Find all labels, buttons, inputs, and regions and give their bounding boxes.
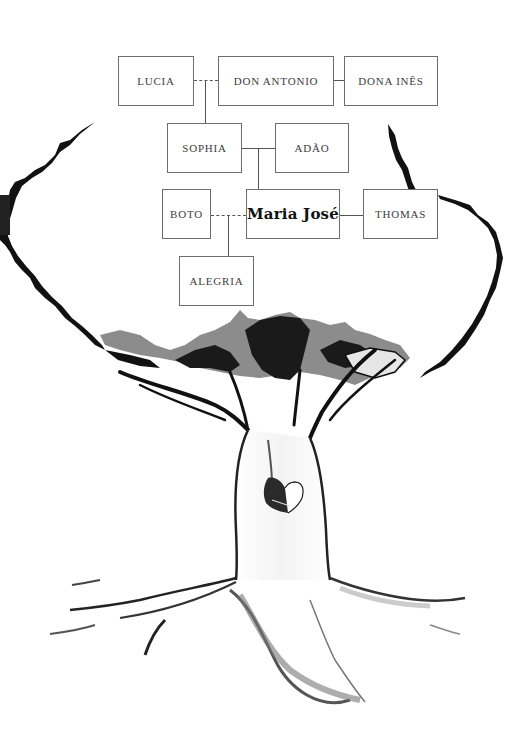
tree-illustration (0, 0, 524, 755)
relationship-line-don-antonio-dona-ines (334, 80, 344, 81)
relationship-line-lucia-don-antonio (194, 80, 218, 81)
person-name: LUCIA (137, 75, 175, 87)
person-name: BOTO (170, 208, 203, 220)
person-box-don-antonio: DON ANTONIO (218, 56, 334, 106)
person-name: ADÃO (295, 142, 330, 154)
person-box-boto: BOTO (162, 189, 211, 239)
relationship-line-maria-jose-thomas (340, 215, 363, 216)
tree-roots (50, 578, 465, 703)
person-box-alegria: ALEGRIA (179, 256, 254, 306)
descent-line-to-alegria (228, 215, 229, 256)
person-box-lucia: LUCIA (118, 56, 194, 106)
person-name: DON ANTONIO (234, 75, 319, 87)
person-box-sophia: SOPHIA (167, 123, 242, 173)
person-box-maria-jose: Maria José (246, 189, 340, 239)
descent-line-to-sophia (205, 80, 206, 123)
family-tree-canvas: LUCIA DON ANTONIO DONA INÊS SOPHIA ADÃO … (0, 0, 524, 755)
person-name: THOMAS (375, 208, 426, 220)
tree-foliage (100, 310, 410, 385)
person-box-thomas: THOMAS (363, 189, 438, 239)
crown-outline-left (0, 122, 105, 350)
person-name: SOPHIA (182, 142, 227, 154)
person-name-focus: Maria José (247, 205, 339, 223)
descent-line-to-maria-jose (258, 148, 259, 189)
person-box-adao: ADÃO (275, 123, 349, 173)
person-name: DONA INÊS (358, 75, 424, 87)
person-name: ALEGRIA (190, 275, 244, 287)
person-box-dona-ines: DONA INÊS (344, 56, 438, 106)
crown-outline-right (388, 124, 503, 378)
